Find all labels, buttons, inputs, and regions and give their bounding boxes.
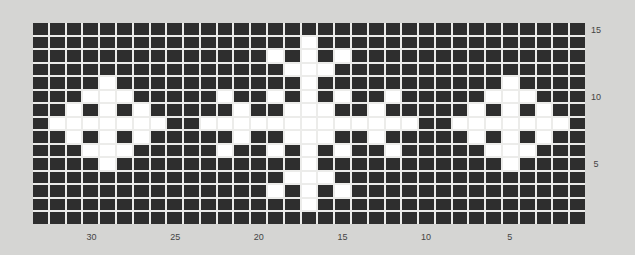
stitch-cell	[151, 91, 166, 103]
stitch-cell	[218, 23, 233, 35]
stitch-cell	[268, 158, 283, 170]
stitch-cell	[486, 118, 501, 130]
stitch-cell	[218, 158, 233, 170]
stitch-cell	[369, 91, 384, 103]
stitch-cell	[268, 104, 283, 116]
stitch-cell	[268, 199, 283, 211]
stitch-cell	[318, 185, 333, 197]
stitch-cell	[33, 37, 48, 49]
stitch-cell	[553, 212, 568, 224]
stitch-cell	[553, 50, 568, 62]
stitch-cell	[184, 118, 199, 130]
stitch-cell	[67, 104, 82, 116]
stitch-cell	[436, 77, 451, 89]
stitch-cell	[352, 64, 367, 76]
stitch-cell	[50, 104, 65, 116]
stitch-cell	[537, 64, 552, 76]
stitch-cell	[335, 131, 350, 143]
stitch-cell	[570, 185, 585, 197]
stitch-cell	[50, 131, 65, 143]
x-tick-label: 30	[87, 232, 97, 242]
stitch-cell	[469, 50, 484, 62]
stitch-cell	[520, 23, 535, 35]
stitch-cell	[134, 172, 149, 184]
stitch-cell	[117, 185, 132, 197]
stitch-cell	[83, 158, 98, 170]
stitch-cell	[402, 77, 417, 89]
stitch-cell	[570, 131, 585, 143]
stitch-cell	[520, 185, 535, 197]
stitch-cell	[268, 37, 283, 49]
stitch-cell	[520, 91, 535, 103]
stitch-cell	[419, 23, 434, 35]
stitch-cell	[503, 64, 518, 76]
stitch-cell	[151, 131, 166, 143]
stitch-cell	[386, 23, 401, 35]
stitch-cell	[419, 37, 434, 49]
stitch-cell	[436, 172, 451, 184]
stitch-cell	[469, 145, 484, 157]
stitch-cell	[167, 185, 182, 197]
stitch-cell	[503, 118, 518, 130]
stitch-cell	[167, 23, 182, 35]
stitch-cell	[218, 77, 233, 89]
stitch-cell	[386, 91, 401, 103]
stitch-cell	[570, 91, 585, 103]
stitch-cell	[67, 23, 82, 35]
stitch-cell	[318, 37, 333, 49]
stitch-cell	[520, 212, 535, 224]
stitch-cell	[151, 23, 166, 35]
stitch-cell	[167, 64, 182, 76]
stitch-cell	[167, 212, 182, 224]
stitch-cell	[184, 145, 199, 157]
stitch-cell	[302, 199, 317, 211]
stitch-cell	[251, 131, 266, 143]
stitch-cell	[537, 77, 552, 89]
stitch-cell	[386, 199, 401, 211]
stitch-cell	[251, 158, 266, 170]
stitch-cell	[369, 158, 384, 170]
stitch-cell	[151, 158, 166, 170]
stitch-cell	[268, 172, 283, 184]
stitch-cell	[184, 64, 199, 76]
stitch-cell	[386, 131, 401, 143]
stitch-cell	[436, 131, 451, 143]
stitch-cell	[234, 145, 249, 157]
stitch-cell	[537, 145, 552, 157]
stitch-cell	[151, 145, 166, 157]
stitch-cell	[201, 91, 216, 103]
stitch-cell	[318, 64, 333, 76]
stitch-cell	[302, 158, 317, 170]
stitch-cell	[33, 158, 48, 170]
stitch-cell	[570, 37, 585, 49]
stitch-cell	[251, 91, 266, 103]
stitch-cell	[251, 37, 266, 49]
stitch-cell	[33, 91, 48, 103]
stitch-cell	[151, 118, 166, 130]
stitch-cell	[419, 91, 434, 103]
stitch-cell	[234, 104, 249, 116]
stitch-cell	[453, 185, 468, 197]
stitch-cell	[83, 145, 98, 157]
stitch-cell	[570, 212, 585, 224]
stitch-cell	[134, 91, 149, 103]
stitch-cell	[402, 199, 417, 211]
stitch-cell	[302, 37, 317, 49]
stitch-cell	[402, 64, 417, 76]
stitch-cell	[436, 104, 451, 116]
stitch-cell	[419, 118, 434, 130]
stitch-cell	[302, 64, 317, 76]
stitch-cell	[100, 77, 115, 89]
stitch-cell	[419, 185, 434, 197]
stitch-cell	[201, 158, 216, 170]
stitch-cell	[285, 91, 300, 103]
stitch-cell	[83, 104, 98, 116]
stitch-cell	[402, 212, 417, 224]
stitch-cell	[218, 172, 233, 184]
stitch-cell	[268, 23, 283, 35]
stitch-cell	[302, 118, 317, 130]
stitch-cell	[201, 77, 216, 89]
stitch-cell	[50, 172, 65, 184]
stitch-cell	[553, 104, 568, 116]
stitch-cell	[553, 145, 568, 157]
